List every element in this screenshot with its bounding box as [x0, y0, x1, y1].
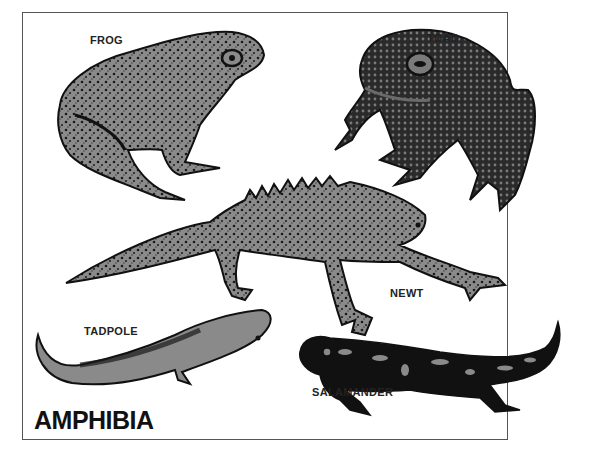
plate-title: AMPHIBIA — [34, 406, 154, 435]
amphibian-illustrations — [0, 0, 605, 462]
toad-label: TOAD — [427, 32, 459, 44]
salamander-label: SALAMANDER — [312, 386, 393, 398]
toad-illustration — [335, 30, 535, 210]
frog-illustration — [58, 32, 264, 200]
frog-label: FROG — [90, 34, 123, 46]
newt-illustration — [66, 176, 505, 335]
newt-label: NEWT — [390, 287, 424, 299]
salamander-illustration — [300, 322, 560, 415]
tadpole-label: TADPOLE — [84, 325, 138, 337]
tadpole-illustration — [37, 310, 271, 384]
